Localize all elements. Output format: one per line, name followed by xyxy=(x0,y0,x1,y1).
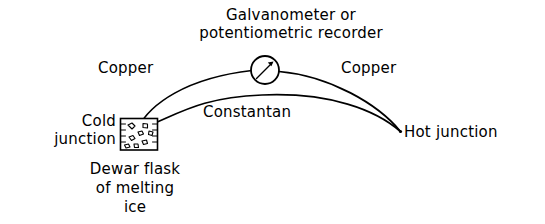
dewar-flask-caption: Dewar flask of melting ice xyxy=(60,160,210,217)
hot-junction-label: Hot junction xyxy=(404,124,498,141)
thermocouple-diagram: Galvanometer or potentiometric recorder … xyxy=(0,0,545,224)
hot-junction-point xyxy=(399,130,402,133)
copper-left-label: Copper xyxy=(98,60,153,77)
dewar-flask-icon xyxy=(121,119,158,151)
constantan-label: Constantan xyxy=(203,104,291,121)
galvanometer-dial-icon xyxy=(251,56,279,84)
cold-junction-label: Cold junction xyxy=(8,112,116,148)
galvanometer-title-label: Galvanometer or potentiometric recorder xyxy=(175,6,407,42)
copper-right-label: Copper xyxy=(341,60,396,77)
